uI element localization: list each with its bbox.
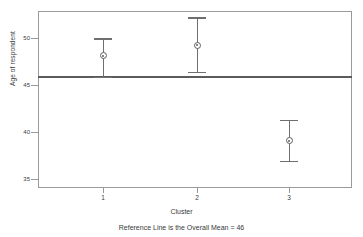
error-bar-cluster-3	[280, 0, 298, 188]
error-bar-lower-cap	[280, 161, 298, 162]
error-bar-cluster-2	[188, 0, 206, 188]
y-axis-title: Age of respondent	[9, 9, 16, 109]
y-tick-mark-45	[31, 85, 38, 86]
error-bar-lower-cap	[188, 72, 206, 73]
data-point-marker-cluster-2	[194, 42, 201, 49]
x-tick-mark-1	[103, 188, 104, 193]
x-tick-label-3: 3	[279, 194, 299, 201]
y-tick-label-45: 45	[8, 82, 30, 88]
y-tick-label-50: 50	[8, 35, 30, 41]
error-bar-cluster-1	[94, 0, 112, 188]
y-tick-mark-40	[31, 132, 38, 133]
y-tick-label-35: 35	[8, 176, 30, 182]
y-tick-mark-50	[31, 38, 38, 39]
x-axis-title: Cluster	[0, 208, 363, 215]
x-tick-mark-3	[289, 188, 290, 193]
x-tick-label-2: 2	[187, 194, 207, 201]
chart-footnote: Reference Line is the Overall Mean = 46	[0, 224, 363, 231]
error-bar-lower-cap	[94, 77, 112, 78]
data-point-marker-cluster-3	[286, 137, 293, 144]
x-tick-mark-2	[197, 188, 198, 193]
chart-container: Age of respondent 50 45 40 35 1 2 3 Clus…	[0, 0, 363, 237]
data-point-marker-cluster-1	[100, 52, 107, 59]
y-tick-label-40: 40	[8, 129, 30, 135]
y-tick-mark-35	[31, 179, 38, 180]
x-tick-label-1: 1	[93, 194, 113, 201]
